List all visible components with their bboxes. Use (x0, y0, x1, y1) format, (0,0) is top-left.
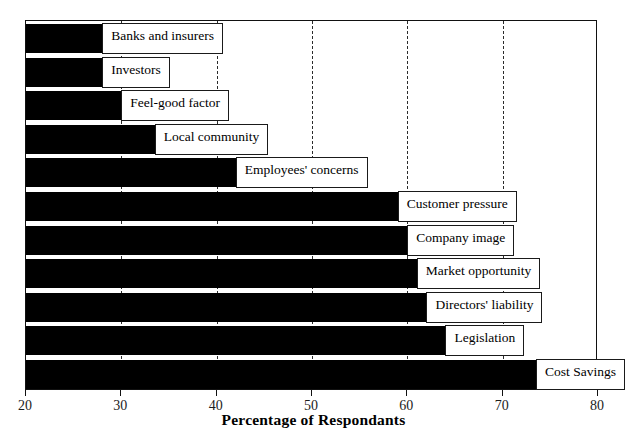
bar-employees-concerns[interactable] (26, 158, 236, 187)
bar-label-cost-savings: Cost Savings (536, 359, 625, 390)
x-tick-mark-80 (597, 390, 598, 396)
bar-label-legislation: Legislation (445, 325, 524, 356)
bar-label-local-community: Local community (155, 124, 269, 155)
x-axis-title: Percentage of Respondants (0, 411, 627, 429)
bar-label-directors-liability: Directors' liability (426, 292, 542, 323)
bar-label-investors: Investors (102, 57, 170, 88)
x-tick-mark-60 (406, 390, 407, 396)
bar-label-market-opportunity: Market opportunity (417, 258, 540, 289)
bar-feel-good-factor[interactable] (26, 91, 121, 120)
x-tick-mark-40 (216, 390, 217, 396)
bar-row (26, 125, 598, 154)
bar-banks-and-insurers[interactable] (26, 24, 102, 53)
bar-local-community[interactable] (26, 125, 155, 154)
plot-area: Banks and insurersInvestorsFeel-good fac… (25, 20, 597, 390)
bar-row (26, 360, 598, 389)
bar-legislation[interactable] (26, 326, 445, 355)
bar-company-image[interactable] (26, 226, 407, 255)
bar-cost-savings[interactable] (26, 360, 536, 389)
x-tick-mark-20 (25, 390, 26, 396)
bar-label-company-image: Company image (407, 225, 514, 256)
x-tick-mark-70 (502, 390, 503, 396)
bar-investors[interactable] (26, 58, 102, 87)
chart-figure: Banks and insurersInvestorsFeel-good fac… (0, 0, 627, 448)
bar-market-opportunity[interactable] (26, 259, 417, 288)
bar-row (26, 91, 598, 120)
bar-label-banks-and-insurers: Banks and insurers (102, 23, 223, 54)
x-tick-mark-30 (120, 390, 121, 396)
bar-label-feel-good-factor: Feel-good factor (121, 90, 229, 121)
bar-label-employees-concerns: Employees' concerns (236, 157, 368, 188)
bar-label-customer-pressure: Customer pressure (398, 191, 517, 222)
x-tick-mark-50 (311, 390, 312, 396)
bar-customer-pressure[interactable] (26, 192, 398, 221)
bar-directors-liability[interactable] (26, 293, 426, 322)
